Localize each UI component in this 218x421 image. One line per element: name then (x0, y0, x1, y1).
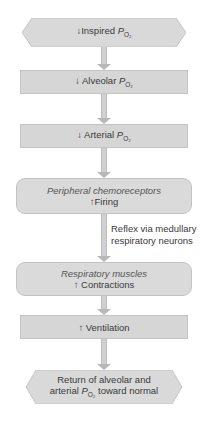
node-title: Peripheral chemoreceptors (47, 185, 161, 196)
node-return-to-normal: Return of alveolar and arterial PO₂ towa… (26, 370, 182, 404)
node-peripheral-chemoreceptors: Peripheral chemoreceptors ↑Firing (16, 178, 192, 214)
down-arrow-icon: ↓ (75, 75, 80, 86)
down-arrow-icon: ↓ (77, 129, 82, 140)
node-inspired-po2: ↓Inspired PO₂ (22, 18, 186, 47)
node-respiratory-muscles: Respiratory muscles ↑ Contractions (16, 262, 192, 296)
flow-arrow-icon (100, 47, 108, 70)
flow-arrow-icon (100, 94, 108, 124)
node-ventilation: ↑ Ventilation (20, 315, 188, 339)
node-alveolar-po2: ↓ Alveolar PO₂ (20, 70, 188, 94)
up-arrow-icon: ↑ (74, 279, 79, 290)
up-arrow-icon: ↑ (78, 322, 83, 333)
flow-arrow-icon (100, 296, 108, 315)
flow-arrow-icon (100, 148, 108, 178)
node-title: Respiratory muscles (61, 268, 147, 279)
flow-arrow-icon (100, 214, 108, 262)
node-arterial-po2: ↓ Arterial PO₂ (20, 124, 188, 148)
flow-arrow-icon (100, 339, 108, 370)
edge-label-reflex: Reflex via medullary respiratory neurons (111, 223, 197, 247)
